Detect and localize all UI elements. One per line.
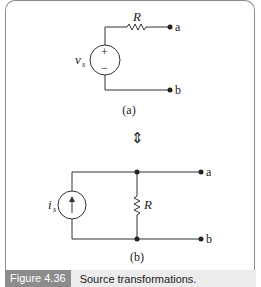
plus-sign: + [101, 45, 108, 59]
circuit-figure: R + − v s a b (a) ⇕ R i s a b (b) [0, 0, 261, 270]
sublabel-a: (a) [122, 103, 135, 117]
svg-text:s: s [53, 205, 56, 214]
caption-text: Source transformations. [71, 273, 197, 285]
terminal-a-label: a [206, 165, 212, 179]
resistor-b-label: R [143, 197, 152, 212]
terminal-b-label: b [206, 232, 212, 246]
svg-text:s: s [82, 60, 85, 69]
figure-caption: Figure 4.36 Source transformations. [5, 270, 256, 287]
resistor-a-icon [127, 24, 146, 30]
terminal-a-label: a [175, 20, 181, 34]
figure-number: Figure 4.36 [5, 270, 71, 287]
source-b-label: i [48, 197, 52, 212]
minus-sign: − [101, 61, 108, 75]
equivalence-icon: ⇕ [131, 130, 144, 146]
terminal-b-label: b [175, 83, 181, 97]
sublabel-b: (b) [130, 250, 144, 264]
source-a-label: v [75, 52, 81, 67]
resistor-a-label: R [132, 9, 141, 24]
resistor-b-icon [134, 196, 140, 215]
